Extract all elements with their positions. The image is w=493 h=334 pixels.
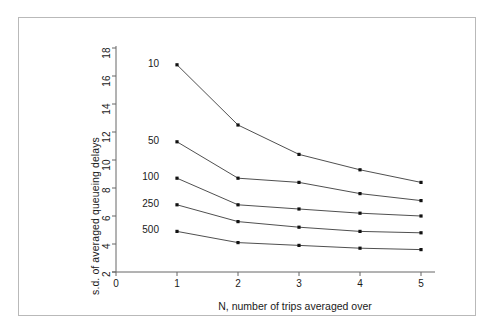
- data-point-100-n2: [236, 203, 239, 206]
- figure-root: s.d. of averaged queueing delays N, numb…: [0, 0, 493, 334]
- data-point-100-n1: [175, 177, 178, 180]
- x-tick-label: 4: [350, 278, 370, 289]
- y-tick-label-wrap: 4: [86, 238, 108, 250]
- y-tick-label: 12: [101, 132, 112, 152]
- y-tick-label-wrap: 12: [86, 126, 108, 138]
- data-point-10-n5: [419, 181, 422, 184]
- axes: [112, 46, 435, 276]
- x-tick-label: 2: [228, 278, 248, 289]
- series-line-10: [177, 65, 421, 183]
- data-point-100-n3: [297, 207, 300, 210]
- series-label-100: 100: [129, 171, 159, 182]
- data-point-10-n2: [236, 123, 239, 126]
- data-point-250-n5: [419, 231, 422, 234]
- y-tick-label-wrap: 16: [86, 70, 108, 82]
- data-point-500-n4: [358, 247, 361, 250]
- data-point-250-n1: [175, 203, 178, 206]
- data-point-500-n5: [419, 248, 422, 251]
- data-point-10-n4: [358, 168, 361, 171]
- y-tick-label-wrap: 18: [86, 42, 108, 54]
- y-tick-label: 16: [101, 76, 112, 96]
- data-point-50-n1: [175, 140, 178, 143]
- y-tick-label-wrap: 8: [86, 182, 108, 194]
- series-label-50: 50: [129, 135, 159, 146]
- y-axis-label-container: s.d. of averaged queueing delays: [62, 60, 88, 260]
- y-tick-label-wrap: 6: [86, 210, 108, 222]
- y-tick-label: 4: [101, 244, 112, 264]
- x-tick-label: 1: [167, 278, 187, 289]
- x-tick-label: 0: [106, 278, 126, 289]
- data-point-250-n2: [236, 220, 239, 223]
- data-point-50-n2: [236, 177, 239, 180]
- data-point-50-n3: [297, 181, 300, 184]
- series-line-50: [177, 142, 421, 201]
- data-point-250-n3: [297, 226, 300, 229]
- data-point-50-n4: [358, 192, 361, 195]
- data-point-500-n3: [297, 244, 300, 247]
- x-tick-label: 3: [289, 278, 309, 289]
- x-axis-label: N, number of trips averaged over: [160, 300, 430, 312]
- series-label-500: 500: [129, 224, 159, 235]
- data-point-10-n3: [297, 153, 300, 156]
- data-point-50-n5: [419, 199, 422, 202]
- y-tick-label-wrap: 2: [86, 266, 108, 278]
- series-label-10: 10: [129, 58, 159, 69]
- data-series: [175, 63, 422, 251]
- data-point-100-n4: [358, 212, 361, 215]
- y-tick-label-wrap: 14: [86, 98, 108, 110]
- x-tick-label: 5: [411, 278, 431, 289]
- y-tick-label: 6: [101, 216, 112, 236]
- y-tick-label-wrap: 10: [86, 154, 108, 166]
- data-point-250-n4: [358, 230, 361, 233]
- series-label-250: 250: [129, 198, 159, 209]
- data-point-100-n5: [419, 214, 422, 217]
- y-tick-label: 18: [101, 48, 112, 68]
- data-point-10-n1: [175, 63, 178, 66]
- y-tick-label: 8: [101, 188, 112, 208]
- data-point-500-n1: [175, 230, 178, 233]
- y-tick-label: 10: [101, 160, 112, 180]
- y-tick-label: 14: [101, 104, 112, 124]
- data-point-500-n2: [236, 241, 239, 244]
